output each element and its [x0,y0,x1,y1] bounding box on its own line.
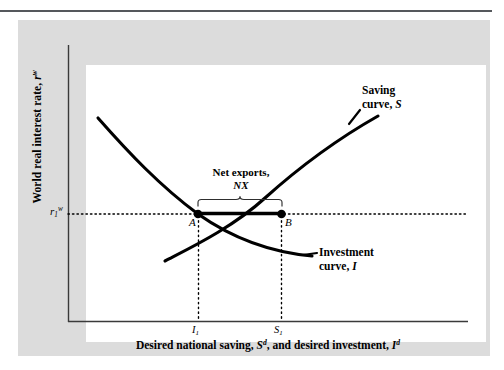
saving-curve-label-line2: curve, S [362,97,402,111]
y-axis-tick-label-r1w: r1w [50,205,63,220]
saving-curve-label: Saving curve, S [362,83,402,112]
saving-label-leader [349,110,360,124]
net-exports-line1: Net exports, [186,166,296,179]
investment-curve-label-prefix: curve, [319,260,352,272]
x-axis-tick-label-i1: I1 [192,324,199,337]
investment-curve-label-line2: curve, I [319,259,374,273]
y-axis-title-superscript: w [30,70,39,75]
investment-curve-label: Investment curve, I [319,245,374,274]
x-axis-tick-label-s1: S1 [274,324,283,337]
saving-curve-label-line1: Saving [362,83,402,97]
point-a-label: A [189,216,196,229]
x-axis-title-sup-d2: d [396,338,400,347]
net-exports-brace [198,197,282,207]
x-axis-title-part1: Desired national saving, [136,339,257,351]
net-exports-annotation: Net exports, NX [186,166,296,192]
y-axis-title: World real interest rate, rw [31,37,45,237]
x-tick-i-subscript: 1 [196,329,199,336]
investment-curve-label-symbol: I [352,260,356,272]
y-tick-superscript: w [58,205,63,213]
y-axis-title-text: World real interest rate, [31,80,43,204]
saving-curve-label-symbol: S [395,98,401,110]
point-b-label: B [285,216,292,229]
investment-curve-label-line1: Investment [319,245,374,259]
investment-label-leader [303,253,317,255]
saving-curve-label-prefix: curve, [362,98,395,110]
x-axis-title: Desired national saving, Sd, and desired… [68,339,468,353]
x-axis-title-part2: , and desired investment, [267,339,392,351]
x-tick-s-subscript: 1 [279,329,282,336]
net-exports-line2: NX [186,179,296,192]
y-axis-title-symbol: r [31,75,43,80]
